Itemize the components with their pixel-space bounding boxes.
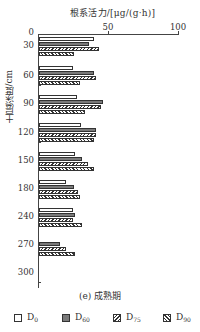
legend-label: D60: [75, 312, 90, 323]
legend-label: D90: [176, 312, 191, 323]
bar-d90-120: [39, 138, 94, 142]
legend-item-d90: D90: [163, 312, 191, 323]
bar-d75-240: [39, 218, 73, 222]
bar-d90-270: [39, 252, 75, 256]
white-swatch-icon: [14, 314, 22, 322]
bar-d75-150: [39, 162, 88, 166]
bar-d90-30: [39, 52, 74, 56]
bar-d75-180: [39, 190, 78, 194]
forward-hatch-swatch-icon: [113, 314, 121, 322]
x-tickmark: [108, 31, 109, 35]
bar-d0-150: [39, 152, 75, 156]
bar-d60-30: [39, 42, 89, 46]
bar-d75-120: [39, 133, 96, 137]
bar-d90-150: [39, 167, 94, 171]
y-tickmark: [38, 85, 41, 86]
y-tick-label: 30: [4, 40, 34, 50]
y-tick-label: 120: [4, 127, 34, 137]
legend-item-d75: D75: [113, 312, 141, 323]
y-tickmark: [38, 282, 41, 283]
legend: D0 D60 D75 D90: [0, 312, 200, 326]
y-tick-label: 180: [4, 183, 34, 193]
back-hatch-swatch-icon: [163, 314, 171, 322]
y-tick-label: 300: [4, 267, 34, 277]
y-tick-label: 150: [4, 155, 34, 165]
bar-d60-180: [39, 185, 74, 189]
bar-d60-270: [39, 242, 60, 246]
bar-d75-30: [39, 47, 99, 51]
bar-d60-90: [39, 100, 103, 104]
bar-d0-90: [39, 95, 77, 99]
y-tick-label: 270: [4, 239, 34, 249]
bar-d0-240: [39, 208, 73, 212]
y-tick-label: 90: [4, 98, 34, 108]
bar-d60-150: [39, 157, 82, 161]
gray-swatch-icon: [62, 314, 70, 322]
legend-item-d0: D0: [14, 312, 38, 323]
bar-d75-60: [39, 76, 96, 80]
bar-d60-120: [39, 128, 96, 132]
bar-d90-240: [39, 223, 82, 227]
bar-d0-180: [39, 180, 66, 184]
bar-d0-120: [39, 123, 81, 127]
legend-label: D75: [126, 312, 141, 323]
legend-label: D0: [27, 312, 38, 323]
bar-d75-90: [39, 105, 101, 109]
legend-item-d60: D60: [62, 312, 90, 323]
bar-d90-180: [39, 195, 80, 199]
bar-d60-240: [39, 213, 75, 217]
y-tick-label: 240: [4, 211, 34, 221]
bar-d90-60: [39, 81, 80, 85]
y-tick-label: 0: [4, 27, 34, 37]
bar-d90-90: [39, 110, 85, 114]
bar-d75-270: [39, 247, 66, 251]
bar-d0-30: [39, 37, 94, 41]
chart-caption: (e) 成熟期: [0, 289, 200, 302]
y-tickmark: [38, 142, 41, 143]
bar-d0-60: [39, 66, 73, 70]
bar-d60-60: [39, 71, 94, 75]
x-tickmark: [178, 31, 179, 35]
y-tick-label: 60: [4, 70, 34, 80]
x-axis-title: 根系活力/[μg/(g·h)]: [70, 6, 155, 19]
